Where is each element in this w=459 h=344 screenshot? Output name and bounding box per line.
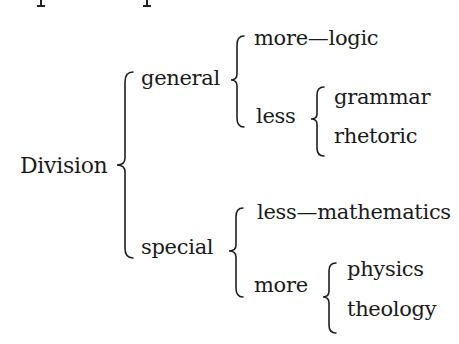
- brace-special: [229, 208, 243, 297]
- brace-special-more: [323, 263, 336, 333]
- brace-general: [231, 36, 244, 127]
- node-theology: theology: [347, 299, 436, 320]
- node-grammar: grammar: [334, 87, 430, 108]
- node-special: special: [141, 237, 213, 258]
- division-diagram: Division general more—logic less grammar…: [0, 0, 459, 344]
- node-general-more-logic: more—logic: [254, 28, 378, 49]
- node-physics: physics: [347, 259, 424, 280]
- node-division: Division: [20, 155, 107, 177]
- node-special-less-mathematics: less—mathematics: [257, 202, 451, 223]
- node-general: general: [141, 68, 220, 89]
- node-special-more: more: [254, 275, 308, 296]
- node-general-less: less: [256, 106, 296, 127]
- brace-division: [117, 72, 133, 258]
- node-rhetoric: rhetoric: [334, 126, 417, 147]
- brace-general-less: [311, 87, 324, 156]
